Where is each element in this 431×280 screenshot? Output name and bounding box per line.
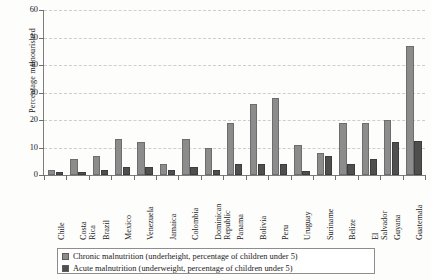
y-tick: [39, 38, 44, 39]
x-tick-label: Salvador: [381, 211, 390, 240]
bar-chronic: [272, 98, 279, 175]
bar-chronic: [115, 139, 122, 175]
bar-group: [93, 10, 108, 175]
y-tick: [39, 93, 44, 94]
bar-acute: [280, 164, 287, 175]
y-tick: [39, 10, 44, 11]
y-tick-label: 30: [13, 89, 38, 97]
x-tick-label: Guyana: [394, 215, 403, 240]
bar-acute: [258, 164, 265, 175]
x-tick-label: Jamaica: [170, 214, 179, 240]
y-tick: [39, 120, 44, 121]
legend-item-label: Chronic malnutrition (underheight, perce…: [73, 252, 298, 261]
x-tick: [156, 175, 157, 180]
bar-acute: [302, 171, 309, 175]
legend-item: Acute malnutrition (underweight, percent…: [62, 263, 370, 274]
bar-group: [70, 10, 85, 175]
x-tick-label: Suriname: [327, 209, 336, 240]
x-tick: [335, 175, 336, 180]
y-tick-label: 20: [13, 116, 38, 124]
x-tick: [313, 175, 314, 180]
x-tick-label: Dominican: [215, 204, 224, 240]
x-tick-label: Belize: [349, 219, 358, 240]
x-tick: [66, 175, 67, 180]
legend-item-label: Acute malnutrition (underweight, percent…: [73, 264, 293, 273]
bar-chronic: [70, 159, 77, 176]
x-tick: [44, 175, 45, 180]
x-tick: [425, 175, 426, 180]
x-tick: [134, 175, 135, 180]
bar-group: [362, 10, 377, 175]
bar-chronic: [294, 145, 301, 175]
bar-group: [317, 10, 332, 175]
bar-chronic: [317, 153, 324, 175]
y-tick: [39, 65, 44, 66]
y-tick-label: 10: [13, 144, 38, 152]
bar-acute: [414, 141, 421, 175]
bar-group: [227, 10, 242, 175]
bar-acute: [392, 142, 399, 175]
plot-area: 0102030405060: [43, 10, 425, 176]
y-axis-title: Percentage malnourished: [28, 0, 37, 151]
bar-chronic: [227, 123, 234, 175]
malnutrition-bar-chart: Percentage malnourished 0102030405060 Ch…: [0, 0, 431, 280]
x-tick-label: Guatemala: [416, 205, 425, 240]
bar-acute: [101, 170, 108, 176]
y-tick: [39, 148, 44, 149]
bar-group: [205, 10, 220, 175]
y-tick-label: 50: [13, 34, 38, 42]
x-tick: [111, 175, 112, 180]
x-tick: [403, 175, 404, 180]
bar-chronic: [205, 148, 212, 176]
bar-group: [384, 10, 399, 175]
bar-acute: [235, 164, 242, 175]
bar-acute: [370, 159, 377, 176]
legend-item: Chronic malnutrition (underheight, perce…: [62, 251, 370, 262]
y-tick-label: 0: [13, 171, 38, 179]
x-tick-label: Uruguay: [304, 211, 313, 240]
bar-acute: [325, 156, 332, 175]
bar-chronic: [406, 46, 413, 175]
x-tick-label: El: [372, 233, 381, 240]
bar-chronic: [182, 139, 189, 175]
x-tick: [223, 175, 224, 180]
bar-acute: [190, 167, 197, 175]
x-axis-labels: ChileCostaRicaBrazilMexicoVenezuelaJamai…: [43, 182, 424, 244]
bar-acute: [56, 172, 63, 175]
square-swatch-dark-icon: [62, 265, 69, 272]
bar-chronic: [339, 123, 346, 175]
x-tick: [268, 175, 269, 180]
bar-group: [115, 10, 130, 175]
x-tick-label: Republic: [224, 210, 233, 240]
x-tick-label: Panama: [237, 214, 246, 240]
x-tick: [291, 175, 292, 180]
bar-group: [272, 10, 287, 175]
x-tick-label: Mexico: [125, 215, 134, 240]
bar-group: [137, 10, 152, 175]
x-tick: [201, 175, 202, 180]
bar-acute: [213, 170, 220, 176]
x-tick: [358, 175, 359, 180]
x-tick: [178, 175, 179, 180]
bar-group: [160, 10, 175, 175]
x-tick-label: Peru: [282, 225, 291, 240]
bar-group: [48, 10, 63, 175]
bar-acute: [123, 167, 130, 175]
bar-group: [182, 10, 197, 175]
x-tick: [380, 175, 381, 180]
bar-acute: [168, 170, 175, 176]
x-tick: [89, 175, 90, 180]
bar-chronic: [93, 156, 100, 175]
bar-group: [406, 10, 421, 175]
bar-acute: [78, 172, 85, 175]
bar-chronic: [362, 123, 369, 175]
bar-group: [250, 10, 265, 175]
x-tick-label: Chile: [58, 222, 67, 240]
x-tick-label: Rica: [89, 225, 98, 240]
y-tick-label: 60: [13, 6, 38, 14]
chart-legend: Chronic malnutrition (underheight, perce…: [57, 248, 375, 274]
x-tick-label: Brazil: [103, 220, 112, 240]
x-tick-label: Colombia: [192, 208, 201, 240]
bar-chronic: [384, 120, 391, 175]
y-tick-label: 40: [13, 61, 38, 69]
